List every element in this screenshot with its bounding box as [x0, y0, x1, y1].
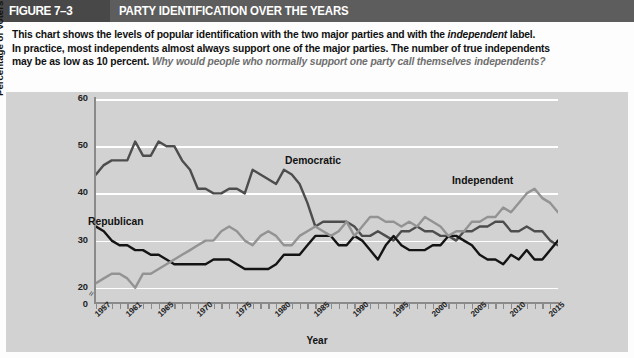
x-tick-2009 — [503, 304, 504, 309]
x-tick-1993 — [378, 304, 379, 309]
caption-line3-part1: may be as low as 10 percent. — [12, 56, 152, 67]
caption-question: Why would people who normally support on… — [152, 56, 546, 67]
y-tick-0: 0 — [62, 299, 88, 309]
figure-number-block: FIGURE 7–3 — [0, 0, 110, 22]
y-axis-title: Percentage of Voters — [0, 1, 5, 96]
figure-number-label: FIGURE 7–3 — [9, 3, 72, 18]
x-tick-1984 — [307, 304, 308, 309]
x-tick-1974 — [229, 304, 230, 309]
caption-line1-part1: This chart shows the levels of popular i… — [12, 29, 448, 40]
y-tick-40: 40 — [62, 187, 88, 197]
series-label-republican: Republican — [88, 216, 144, 227]
x-tick-1969 — [190, 304, 191, 309]
y-tick-30: 30 — [62, 235, 88, 245]
x-tick-2013 — [535, 304, 536, 309]
figure-header-bar: FIGURE 7–3 PARTY IDENTIFICATION OVER THE… — [0, 0, 634, 22]
y-tick-20: 20 — [62, 282, 88, 292]
series-label-democratic: Democratic — [285, 155, 341, 166]
x-tick-1968 — [182, 304, 183, 309]
x-tick-1994 — [386, 304, 387, 309]
x-tick-1999 — [425, 304, 426, 309]
x-tick-1979 — [268, 304, 269, 309]
x-tick-2003 — [456, 304, 457, 309]
x-tick-1973 — [221, 304, 222, 309]
x-tick-1983 — [300, 304, 301, 309]
x-tick-1988 — [339, 304, 340, 309]
y-tick-50: 50 — [62, 140, 88, 150]
y-tick-60: 60 — [62, 93, 88, 103]
x-tick-2008 — [495, 304, 496, 309]
x-tick-1978 — [260, 304, 261, 309]
series-lines — [96, 99, 558, 302]
x-tick-1960 — [120, 304, 121, 309]
x-tick-1964 — [151, 304, 152, 309]
line-independent — [96, 189, 558, 288]
caption-line1-part2: label. — [507, 29, 535, 40]
caption-line1-italic: independent — [448, 29, 508, 40]
x-axis-title: Year — [0, 335, 634, 346]
caption-line2: In practice, most independents almost al… — [12, 43, 550, 54]
figure-title: PARTY IDENTIFICATION OVER THE YEARS — [119, 3, 348, 18]
figure-caption: This chart shows the levels of popular i… — [12, 28, 626, 69]
x-tick-1989 — [347, 304, 348, 309]
x-tick-2014 — [542, 304, 543, 309]
plot-area — [96, 99, 558, 302]
x-tick-1998 — [417, 304, 418, 309]
figure-root: FIGURE 7–3 PARTY IDENTIFICATION OVER THE… — [0, 0, 634, 358]
series-label-independent: Independent — [452, 175, 513, 186]
x-tick-2004 — [464, 304, 465, 309]
